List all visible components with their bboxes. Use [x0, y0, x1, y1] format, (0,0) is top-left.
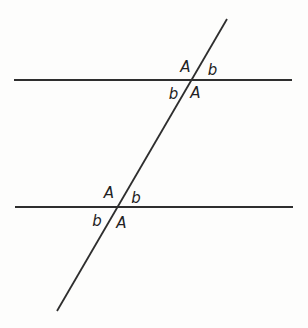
angle-b-top-intersection-upper-right: b	[208, 61, 218, 79]
angle-A-bottom-intersection-upper-left: A	[103, 184, 114, 202]
angle-A-bottom-intersection-lower-right: A	[115, 214, 126, 232]
angle-b-bottom-intersection-upper-right: b	[131, 189, 141, 207]
angle-A-top-intersection-upper-left: A	[179, 58, 190, 76]
diagram-canvas: AbbAAbbA	[0, 0, 308, 328]
angle-b-bottom-intersection-lower-left: b	[92, 212, 102, 230]
paper-background	[0, 0, 308, 328]
geometry-diagram: AbbAAbbA	[0, 0, 308, 328]
angle-b-top-intersection-lower-left: b	[169, 85, 179, 103]
angle-A-top-intersection-lower-right: A	[189, 84, 200, 102]
